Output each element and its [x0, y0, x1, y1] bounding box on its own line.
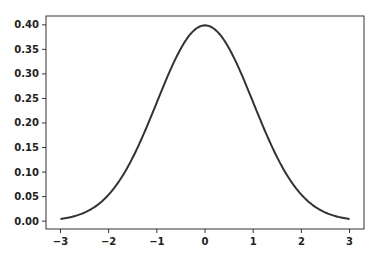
y-tick-label: 0.10 [14, 167, 39, 178]
x-tick-label: −1 [149, 236, 164, 247]
series-line-0 [60, 25, 349, 219]
axes-frame [46, 16, 364, 229]
y-axis-ticks: 0.000.050.100.150.200.250.300.350.40 [14, 19, 46, 226]
x-tick-label: 2 [298, 236, 305, 247]
y-tick-label: 0.25 [14, 93, 39, 104]
y-tick-label: 0.00 [14, 216, 39, 227]
pdf-curve [60, 25, 349, 219]
y-tick-label: 0.05 [14, 191, 39, 202]
x-tick-label: 3 [346, 236, 353, 247]
y-tick-label: 0.35 [14, 44, 39, 55]
y-tick-label: 0.40 [14, 19, 39, 30]
x-axis-ticks: −3−2−10123 [53, 229, 353, 247]
normal-distribution-chart: −3−2−10123 0.000.050.100.150.200.250.300… [0, 0, 380, 259]
y-tick-label: 0.15 [14, 142, 39, 153]
x-tick-label: 1 [250, 236, 257, 247]
x-tick-label: −2 [101, 236, 116, 247]
x-tick-label: 0 [202, 236, 209, 247]
y-tick-label: 0.30 [14, 68, 39, 79]
x-tick-label: −3 [53, 236, 68, 247]
y-tick-label: 0.20 [14, 117, 39, 128]
